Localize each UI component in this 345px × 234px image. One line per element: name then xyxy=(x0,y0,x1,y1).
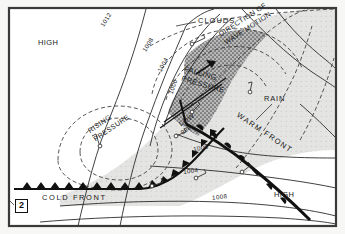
front-label-cold: COLD FRONT xyxy=(42,193,107,202)
annotation-rain: RAIN xyxy=(264,94,285,103)
pressure-label-high-nw: HIGH xyxy=(38,38,58,47)
pressure-label-high-se: HIGH xyxy=(274,190,294,199)
weather-map-figure: HIGH HIGH LOW 996 1012 1008 1004 1000 10… xyxy=(0,0,345,234)
panel-number-badge: 2 xyxy=(15,199,28,213)
